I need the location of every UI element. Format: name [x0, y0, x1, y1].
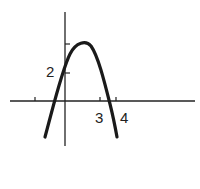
- y-label-2: 2: [46, 64, 54, 79]
- x-label-4: 4: [120, 110, 128, 125]
- parabola-curve: [45, 43, 117, 137]
- x-label-3: 3: [95, 110, 103, 125]
- graph: [0, 0, 200, 189]
